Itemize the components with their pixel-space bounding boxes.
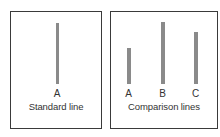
comparison-line-a: [127, 48, 131, 84]
standard-line-caption: Standard line: [10, 102, 102, 112]
standard-line-a-label: A: [47, 89, 67, 99]
comparison-line-a-label: A: [119, 89, 139, 99]
comparison-line-b: [161, 22, 165, 84]
comparison-line-c: [194, 32, 198, 84]
comparison-line-b-label: B: [153, 89, 173, 99]
comparison-lines-caption: Comparison lines: [110, 102, 218, 112]
comparison-line-c-label: C: [186, 89, 206, 99]
standard-line-a: [56, 23, 60, 84]
